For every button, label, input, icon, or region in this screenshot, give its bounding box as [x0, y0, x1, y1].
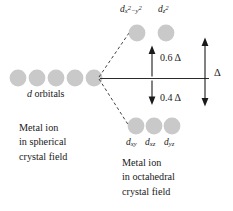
caption-line: crystal field: [19, 150, 67, 164]
dashed-line-to-eg: [99, 33, 129, 77]
orbital-circle: [48, 70, 65, 87]
lower-split-arrow: [149, 81, 156, 106]
orbital-label-dyz: dyz: [164, 137, 174, 148]
correlation-dashed-lines: [99, 33, 129, 126]
orbital-circle-dx2-y2: [129, 25, 146, 42]
orbital-label-dxz: dxz: [145, 137, 155, 148]
crystal-field-splitting-figure: dx2−y2 dz2 0.6 Δ 0.4 Δ Δ d orbitals Meta…: [0, 0, 233, 211]
caption-line: Metal ion: [19, 121, 67, 135]
caption-line: in spherical: [19, 135, 67, 149]
orbital-circle-dz2: [158, 25, 175, 42]
octahedral-field-caption: Metal ion in octahedral crystal field: [122, 156, 175, 199]
spherical-field-orbital-circles: [10, 70, 103, 87]
orbital-circle-dyz: [164, 118, 181, 135]
lower-split-label: 0.4 Δ: [160, 92, 181, 104]
orbital-label-dx2-y2: dx2−y2: [120, 4, 142, 15]
upper-split-label: 0.6 Δ: [160, 52, 181, 64]
orbital-circle-dxz: [146, 118, 163, 135]
t2g-orbital-circles: [128, 118, 181, 135]
arrowhead-up: [202, 38, 209, 47]
orbital-circle-dxy: [128, 118, 145, 135]
orbital-label-dz2: dz2: [158, 4, 169, 15]
dashed-line-to-t2g: [99, 79, 129, 126]
arrowhead-down: [202, 98, 209, 107]
orbital-circle: [10, 70, 27, 87]
upper-split-arrow: [149, 46, 156, 77]
orbital-circle: [86, 70, 103, 87]
caption-line: Metal ion: [122, 156, 175, 170]
d-orbitals-label-rest: orbitals: [32, 88, 65, 99]
diagram-graphics-layer: [0, 0, 233, 211]
eg-orbital-circles: [129, 25, 175, 42]
orbital-label-dxy: dxy: [126, 137, 137, 148]
arrowhead-up: [149, 46, 156, 55]
d-orbitals-label: d orbitals: [27, 88, 65, 100]
arrowhead-down: [149, 97, 156, 106]
total-split-label: Δ: [214, 67, 221, 79]
spherical-field-caption: Metal ion in spherical crystal field: [19, 121, 67, 164]
caption-line: in octahedral: [122, 170, 175, 184]
total-split-arrow: [202, 38, 209, 107]
caption-line: crystal field: [122, 185, 175, 199]
orbital-circle: [67, 70, 84, 87]
orbital-circle: [29, 70, 46, 87]
